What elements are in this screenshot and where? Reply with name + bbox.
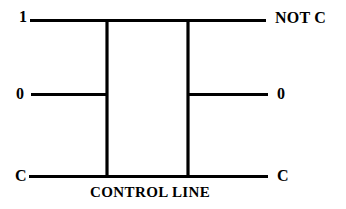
- output-label-top-right: NOT C: [275, 10, 326, 26]
- input-label-bottom-left: C: [15, 168, 27, 184]
- control-line-diagram: 1 0 C NOT C 0 C CONTROL LINE: [0, 0, 346, 209]
- output-label-middle-right: 0: [277, 86, 285, 102]
- output-label-bottom-right: C: [277, 168, 289, 184]
- input-label-middle-left: 0: [16, 86, 24, 102]
- wire-layer: [0, 0, 346, 209]
- input-label-top-left: 1: [19, 9, 27, 25]
- control-line-caption: CONTROL LINE: [90, 185, 210, 200]
